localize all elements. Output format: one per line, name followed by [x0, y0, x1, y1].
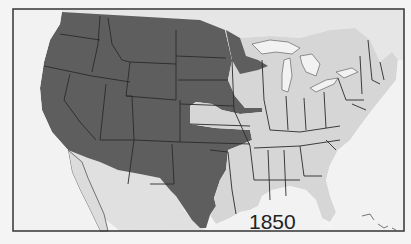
year-label: 1850	[249, 211, 296, 233]
us-map-1850	[0, 0, 411, 244]
